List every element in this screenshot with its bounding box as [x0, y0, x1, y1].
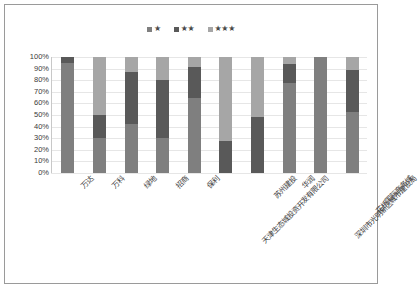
bar-column[interactable]	[61, 57, 74, 173]
legend-item[interactable]: ★★	[174, 25, 195, 33]
chart-frame: ★★★★★★ 100%90%80%70%60%50%40%30%20%10%0%…	[4, 4, 378, 284]
legend-label: ★★	[181, 25, 195, 33]
x-axis-tick-label: 花桥国际商务城	[375, 175, 415, 215]
bar-column[interactable]	[219, 57, 232, 173]
bar-column[interactable]	[188, 57, 201, 173]
bar-column[interactable]	[125, 57, 138, 173]
bar-segment[interactable]	[61, 63, 74, 173]
bar-segment[interactable]	[219, 57, 232, 141]
y-axis-tick-label: 100%	[30, 53, 49, 61]
legend-swatch-icon	[208, 27, 213, 32]
y-axis-tick-label: 10%	[34, 158, 49, 166]
bar-segment[interactable]	[283, 64, 296, 83]
bar-segment[interactable]	[346, 57, 359, 70]
bar-segment[interactable]	[156, 57, 169, 80]
legend-label: ★	[154, 25, 161, 33]
bar-segment[interactable]	[346, 70, 359, 112]
bar-segment[interactable]	[93, 115, 106, 138]
bar-segment[interactable]	[188, 67, 201, 97]
bar-segment[interactable]	[283, 83, 296, 173]
bar-segment[interactable]	[156, 80, 169, 138]
y-axis-tick-label: 70%	[34, 88, 49, 96]
bar-column[interactable]	[346, 57, 359, 173]
bar-segment[interactable]	[93, 138, 106, 173]
bar-segment[interactable]	[125, 72, 138, 124]
legend-label: ★★★	[215, 25, 236, 33]
x-axis-tick-label: 绿地	[143, 175, 159, 191]
bar-segment[interactable]	[251, 57, 264, 117]
bar-segment[interactable]	[125, 124, 138, 173]
x-axis-tick-label: 保利	[206, 175, 222, 191]
plot-area	[51, 57, 367, 173]
legend-item[interactable]: ★★★	[208, 25, 236, 33]
bar-segment[interactable]	[219, 141, 232, 173]
legend-swatch-icon	[174, 27, 179, 32]
y-axis-tick-label: 50%	[34, 111, 49, 119]
y-axis-tick-label: 0%	[38, 169, 49, 177]
y-axis-tick-label: 40%	[34, 123, 49, 131]
legend-item[interactable]: ★	[147, 25, 161, 33]
y-axis-tick-label: 20%	[34, 146, 49, 154]
bar-column[interactable]	[93, 57, 106, 173]
x-axis: 万达万科绿地招商保利天津生态城投资开发有限公司苏州建投华润深圳市光明新区城市建设…	[51, 175, 381, 289]
gridline	[51, 173, 367, 174]
x-axis-tick-label: 招商	[175, 175, 191, 191]
bar-column[interactable]	[283, 57, 296, 173]
legend-swatch-icon	[147, 27, 152, 32]
bar-segment[interactable]	[251, 117, 264, 173]
bar-segment[interactable]	[125, 57, 138, 72]
bar-segment[interactable]	[283, 57, 296, 64]
y-axis-tick-label: 30%	[34, 134, 49, 142]
x-axis-tick-label: 苏州建投	[274, 175, 300, 201]
y-axis-tick-label: 80%	[34, 76, 49, 84]
chart-legend: ★★★★★★	[5, 25, 377, 33]
bar-segment[interactable]	[346, 112, 359, 173]
bar-segment[interactable]	[61, 57, 74, 63]
x-axis-tick-label: 万科	[111, 175, 127, 191]
bar-segment[interactable]	[156, 138, 169, 173]
bar-column[interactable]	[251, 57, 264, 173]
bar-segment[interactable]	[314, 57, 327, 173]
x-axis-tick-label: 万达	[80, 175, 96, 191]
bar-column[interactable]	[156, 57, 169, 173]
y-axis: 100%90%80%70%60%50%40%30%20%10%0%	[13, 57, 49, 173]
bar-column[interactable]	[314, 57, 327, 173]
bar-series-container	[51, 57, 367, 173]
bar-segment[interactable]	[188, 98, 201, 173]
bar-segment[interactable]	[93, 57, 106, 115]
y-axis-tick-label: 60%	[34, 100, 49, 108]
bar-segment[interactable]	[188, 57, 201, 67]
y-axis-tick-label: 90%	[34, 65, 49, 73]
x-axis-tick-label: 天津生态城投资开发有限公司	[260, 175, 330, 245]
